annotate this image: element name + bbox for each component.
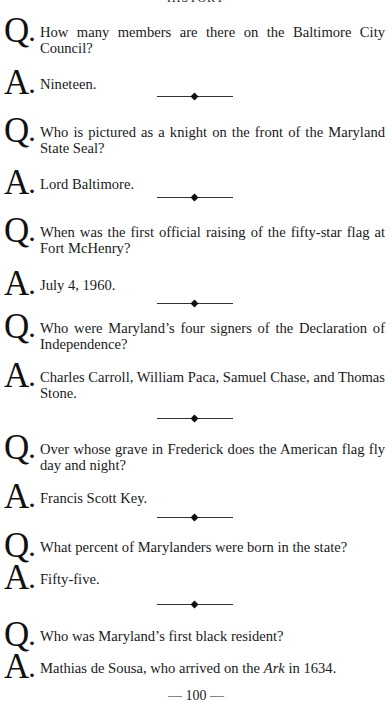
answer-marker: A. [4, 266, 35, 305]
question-row: Q. When was the first official raising o… [0, 225, 392, 256]
answer-text: Lord Baltimore. [40, 177, 385, 193]
answer-text: July 4, 1960. [40, 278, 385, 294]
ship-name: Ark [264, 660, 285, 676]
answer-row: A. Francis Scott Key. [0, 491, 392, 507]
answer-row: A. Fifty-five. [0, 572, 392, 588]
question-text: Over whose grave in Frederick does the A… [40, 442, 385, 473]
diamond-icon [191, 93, 199, 101]
answer-row: A. Lord Baltimore. [0, 177, 392, 193]
answer-row: A. July 4, 1960. [0, 278, 392, 294]
question-marker: Q. [4, 113, 35, 152]
diamond-icon [191, 514, 199, 522]
qa-item-3: Q. When was the first official raising o… [0, 225, 392, 294]
question-text: What percent of Marylanders were born in… [40, 540, 385, 556]
answer-marker: A. [4, 65, 35, 104]
question-text: Who were Maryland’s four signers of the … [40, 321, 385, 352]
question-marker: Q. [4, 13, 35, 52]
question-text: When was the first official raising of t… [40, 225, 385, 256]
answer-marker: A. [4, 649, 35, 688]
question-row: Q. Who was Maryland’s first black reside… [0, 629, 392, 645]
question-row: Q. Over whose grave in Frederick does th… [0, 442, 392, 473]
answer-row: A. Mathias de Sousa, who arrived on the … [0, 661, 392, 677]
diamond-icon [191, 194, 199, 202]
answer-marker: A. [4, 560, 35, 599]
answer-marker: A. [4, 358, 35, 397]
question-text: How many members are there on the Baltim… [40, 25, 385, 56]
qa-item-1: Q. How many members are there on the Bal… [0, 25, 392, 93]
diamond-icon [191, 601, 199, 609]
question-row: Q. Who is pictured as a knight on the fr… [0, 125, 392, 156]
section-divider [157, 92, 233, 101]
diamond-icon [191, 415, 199, 423]
qa-item-6: Q. What percent of Marylanders were born… [0, 540, 392, 587]
question-row: Q. What percent of Marylanders were born… [0, 540, 392, 556]
section-divider [157, 299, 233, 308]
question-marker: Q. [4, 213, 35, 252]
question-text: Who was Maryland’s first black resident? [40, 629, 385, 645]
section-divider [157, 414, 233, 423]
qa-item-4: Q. Who were Maryland’s four signers of t… [0, 321, 392, 401]
qa-item-7: Q. Who was Maryland’s first black reside… [0, 629, 392, 676]
qa-item-2: Q. Who is pictured as a knight on the fr… [0, 125, 392, 193]
section-divider [157, 600, 233, 609]
section-divider [157, 193, 233, 202]
question-marker: Q. [4, 309, 35, 348]
answer-marker: A. [4, 479, 35, 518]
question-row: Q. Who were Maryland’s four signers of t… [0, 321, 392, 352]
page-number: — 100 — [0, 688, 392, 704]
answer-marker: A. [4, 165, 35, 204]
diamond-icon [191, 300, 199, 308]
section-divider [157, 513, 233, 522]
question-text: Who is pictured as a knight on the front… [40, 125, 385, 156]
answer-text: Francis Scott Key. [40, 491, 385, 507]
answer-text: Fifty-five. [40, 572, 385, 588]
running-head: HISTORY [0, 0, 392, 6]
answer-text: Charles Carroll, William Paca, Samuel Ch… [40, 370, 385, 401]
answer-row: A. Charles Carroll, William Paca, Samuel… [0, 370, 392, 401]
question-row: Q. How many members are there on the Bal… [0, 25, 392, 56]
qa-item-5: Q. Over whose grave in Frederick does th… [0, 442, 392, 507]
answer-row: A. Nineteen. [0, 77, 392, 93]
question-marker: Q. [4, 430, 35, 469]
answer-text: Nineteen. [40, 77, 385, 93]
answer-text: Mathias de Sousa, who arrived on the Ark… [40, 661, 385, 677]
